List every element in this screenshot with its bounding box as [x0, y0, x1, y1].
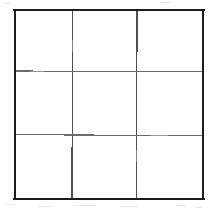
- cell-r1c3[interactable]: [138, 10, 203, 71]
- cell-r2c3[interactable]: [138, 72, 203, 135]
- cell-r2c1[interactable]: [15, 72, 72, 135]
- cell-r3c1[interactable]: [15, 136, 72, 199]
- cell-r3c2[interactable]: [73, 136, 137, 199]
- cell-r1c2[interactable]: [73, 10, 137, 71]
- cell-r1c1[interactable]: [15, 10, 72, 71]
- cell-r3c3[interactable]: [138, 136, 203, 199]
- figure-canvas: [0, 0, 212, 215]
- cell-r2c2[interactable]: [73, 72, 137, 135]
